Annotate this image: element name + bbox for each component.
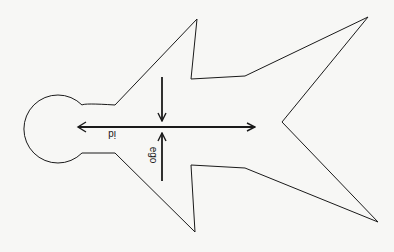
- head-circle: [24, 95, 82, 163]
- id-label: id: [108, 129, 116, 140]
- diagram-canvas: id ego: [0, 0, 394, 252]
- shape-outline: [82, 17, 378, 232]
- ego-label: ego: [148, 147, 159, 164]
- diagram-svg: id ego: [0, 0, 394, 252]
